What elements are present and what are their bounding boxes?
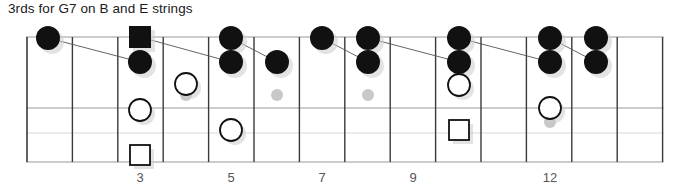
note-marker-filled-circle[interactable] [128,50,152,74]
note-marker-filled-circle[interactable] [219,26,243,50]
fretboard-diagram: 3rds for G7 on B and E strings 357912 [0,0,689,193]
note-marker-open-circle[interactable] [448,74,470,96]
note-marker-open-circle[interactable] [175,73,197,95]
note-marker-filled-square[interactable] [129,26,151,48]
note-marker-filled-circle[interactable] [447,26,471,50]
fret-number-label: 5 [227,170,234,185]
note-marker-filled-circle[interactable] [584,50,608,74]
note-marker-filled-circle[interactable] [584,26,608,50]
fret-lines-group [27,37,663,162]
note-marker-filled-circle[interactable] [356,50,380,74]
fret-number-label: 3 [136,170,143,185]
note-marker-open-circle[interactable] [220,119,242,141]
fret-number-label: 9 [409,170,416,185]
note-marker-filled-circle[interactable] [265,50,289,74]
note-marker-open-square[interactable] [449,120,469,140]
fret-number-label: 7 [318,170,325,185]
note-marker-filled-circle[interactable] [219,50,243,74]
note-marker-filled-circle[interactable] [310,26,334,50]
note-marker-filled-circle[interactable] [538,26,562,50]
fretboard-svg [0,0,689,193]
fret-number-label: 12 [543,170,557,185]
fret-inlay-dot [362,89,374,101]
note-marker-open-square[interactable] [130,145,150,165]
note-marker-filled-circle[interactable] [447,50,471,74]
note-marker-filled-circle[interactable] [36,26,60,50]
note-marker-open-circle[interactable] [129,99,151,121]
note-marker-open-circle[interactable] [539,97,561,119]
note-markers-group [36,26,608,165]
note-marker-filled-circle[interactable] [538,50,562,74]
fret-inlay-dot [271,89,283,101]
note-marker-filled-circle[interactable] [356,26,380,50]
